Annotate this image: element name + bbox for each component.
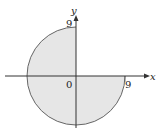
y-intercept-label: 9 [66, 18, 72, 29]
x-intercept-label: 9 [125, 79, 131, 90]
x-axis-label: x [150, 71, 156, 82]
y-axis-label: y [70, 5, 77, 16]
region-diagram: x y 0 9 9 [0, 0, 156, 129]
origin-label: 0 [66, 79, 72, 90]
